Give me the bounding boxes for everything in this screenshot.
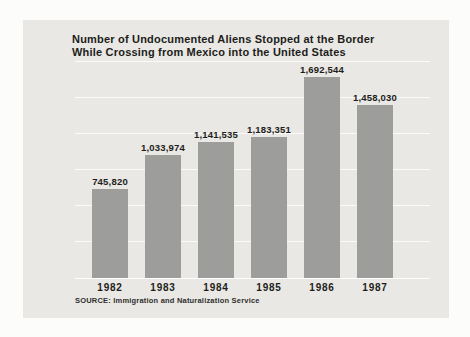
source-note: SOURCE: Immigration and Naturalization S… [75, 296, 260, 305]
bar-group: 1,692,5441986 [304, 20, 340, 318]
bar [304, 77, 340, 278]
bar-group: 745,8201982 [92, 20, 128, 318]
x-axis-label: 1983 [133, 282, 193, 293]
bar-value-label: 1,033,974 [123, 142, 203, 153]
bar [198, 142, 234, 278]
bar-group: 1,458,0301987 [357, 20, 393, 318]
x-axis-label: 1986 [292, 282, 352, 293]
bar-group: 1,033,9741983 [145, 20, 181, 318]
x-axis-label: 1982 [80, 282, 140, 293]
bar [357, 105, 393, 278]
chart-panel: Number of Undocumented Aliens Stopped at… [23, 20, 449, 318]
x-axis-label: 1984 [186, 282, 246, 293]
bar [145, 155, 181, 278]
bar-group: 1,141,5351984 [198, 20, 234, 318]
bar-value-label: 1,183,351 [229, 124, 309, 135]
bar [251, 137, 287, 278]
x-axis-label: 1985 [239, 282, 299, 293]
x-axis-label: 1987 [345, 282, 405, 293]
bar-value-label: 745,820 [70, 176, 150, 187]
bar-value-label: 1,692,544 [282, 64, 362, 75]
bar-value-label: 1,458,030 [335, 92, 415, 103]
bar-series: 745,82019821,033,97419831,141,53519841,1… [23, 20, 449, 318]
bar [92, 189, 128, 278]
